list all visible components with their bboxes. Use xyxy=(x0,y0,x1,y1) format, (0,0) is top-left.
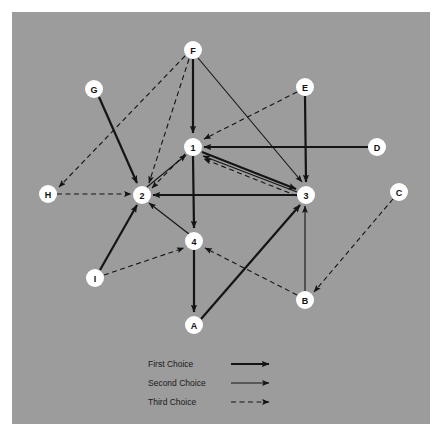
node-A[interactable]: A xyxy=(185,316,203,334)
edge-I-2 xyxy=(100,205,137,270)
node-I[interactable]: I xyxy=(86,269,104,287)
legend-label-second-choice: Second Choice xyxy=(148,378,206,388)
legend-label-first-choice: First Choice xyxy=(148,359,194,369)
legend-item-first-choice: First Choice xyxy=(148,359,269,369)
node-F[interactable]: F xyxy=(184,41,202,59)
edge-B-4 xyxy=(205,248,297,295)
edge-G-2 xyxy=(99,97,137,183)
edge-3-1-third xyxy=(204,159,297,196)
node-B[interactable]: B xyxy=(296,291,314,309)
node-3[interactable]: 3 xyxy=(297,186,315,204)
edge-E-1 xyxy=(204,92,297,139)
sociogram-graph: F G E 1 D H 2 xyxy=(0,0,445,436)
legend-item-third-choice: Third Choice xyxy=(148,397,269,407)
edge-4-2 xyxy=(149,203,189,234)
edge-1-4 xyxy=(193,156,194,228)
node-1[interactable]: 1 xyxy=(184,138,202,156)
edge-2-1 xyxy=(147,155,186,187)
legend-label-third-choice: Third Choice xyxy=(148,397,196,407)
edge-F-H xyxy=(59,56,185,187)
sociogram-figure: F G E 1 D H 2 xyxy=(0,0,445,436)
edge-F-2 xyxy=(149,59,189,183)
edge-C-B xyxy=(314,199,393,292)
node-C[interactable]: C xyxy=(390,183,408,201)
edge-A-3 xyxy=(201,205,300,319)
edge-layer xyxy=(57,56,393,319)
edge-3-1 xyxy=(203,156,297,192)
node-E[interactable]: E xyxy=(296,78,314,96)
legend-item-second-choice: Second Choice xyxy=(148,378,269,388)
node-G[interactable]: G xyxy=(85,80,103,98)
node-4[interactable]: 4 xyxy=(185,232,203,250)
edge-E-3 xyxy=(305,96,306,182)
edge-I-4 xyxy=(104,248,184,275)
node-D[interactable]: D xyxy=(368,138,386,156)
node-H[interactable]: H xyxy=(39,185,57,203)
node-2[interactable]: 2 xyxy=(133,186,151,204)
node-layer: F G E 1 D H 2 xyxy=(39,41,408,334)
legend: First Choice Second Choice Third Choice xyxy=(148,359,269,407)
